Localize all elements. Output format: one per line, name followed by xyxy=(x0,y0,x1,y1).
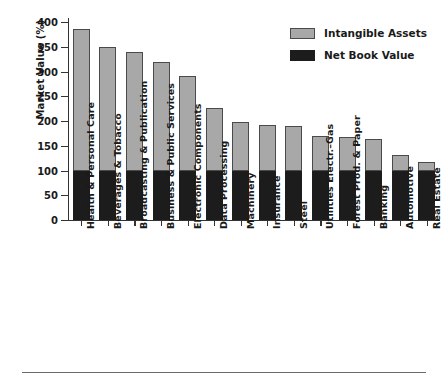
x-tick-label: Business & Public Services xyxy=(165,83,176,229)
chart-figure: Market Value (%) 05010015020025030035040… xyxy=(0,0,448,387)
x-tick xyxy=(267,220,268,226)
y-tick xyxy=(61,96,68,97)
legend-item: Intangible Assets xyxy=(290,22,427,44)
bar-segment-intangible-assets xyxy=(365,139,382,170)
x-tick xyxy=(241,220,242,226)
y-tick-label: 150 xyxy=(0,140,58,151)
y-tick xyxy=(61,121,68,122)
y-tick-label: 0 xyxy=(0,215,58,226)
x-tick-label: Real Estate xyxy=(431,167,442,229)
x-tick-label: Steel xyxy=(298,201,309,229)
x-tick-label: Health & Personal Care xyxy=(85,102,96,229)
legend-swatch xyxy=(290,28,315,39)
y-tick-label: 100 xyxy=(0,165,58,176)
bar-segment-intangible-assets xyxy=(259,125,276,170)
y-tick xyxy=(61,220,68,221)
y-tick xyxy=(61,171,68,172)
x-tick-label: Broadcasting & Publication xyxy=(138,81,149,229)
x-tick-label: Utilities Electr.–Gas xyxy=(324,124,335,229)
legend-item: Net Book Value xyxy=(290,44,427,66)
x-tick-label: Beverages & Tobacco xyxy=(112,113,123,229)
x-tick xyxy=(134,220,135,226)
x-tick xyxy=(108,220,109,226)
y-tick-label: 200 xyxy=(0,116,58,127)
x-tick-label: Machinery xyxy=(245,173,256,230)
x-tick xyxy=(161,220,162,226)
y-axis-line xyxy=(68,18,69,221)
legend-label: Intangible Assets xyxy=(324,27,427,39)
y-tick-label: 250 xyxy=(0,91,58,102)
x-tick xyxy=(427,220,428,226)
y-tick-label: 50 xyxy=(0,190,58,201)
bar-segment-intangible-assets xyxy=(232,122,249,171)
y-tick xyxy=(61,22,68,23)
chart-legend: Intangible AssetsNet Book Value xyxy=(290,22,427,66)
legend-label: Net Book Value xyxy=(324,49,415,61)
x-tick xyxy=(320,220,321,226)
x-tick xyxy=(188,220,189,226)
horizontal-rule xyxy=(22,372,426,373)
y-tick-label: 350 xyxy=(0,41,58,52)
x-tick-label: Automotive xyxy=(404,166,415,229)
x-tick xyxy=(400,220,401,226)
legend-swatch xyxy=(290,50,315,61)
x-tick xyxy=(347,220,348,226)
y-tick-label: 400 xyxy=(0,17,58,28)
x-tick xyxy=(294,220,295,226)
x-tick-label: Electronic Components xyxy=(192,103,203,229)
bar-segment-intangible-assets xyxy=(285,126,302,170)
x-tick-label: Insurance xyxy=(271,175,282,229)
x-tick xyxy=(81,220,82,226)
x-tick-label: Data Processing xyxy=(218,141,229,229)
y-tick-label: 300 xyxy=(0,66,58,77)
x-tick-label: Banking xyxy=(378,185,389,229)
y-tick xyxy=(61,47,68,48)
y-tick xyxy=(61,146,68,147)
x-tick xyxy=(374,220,375,226)
y-tick xyxy=(61,72,68,73)
y-tick xyxy=(61,195,68,196)
x-tick-label: Forest Prod. & Paper xyxy=(351,115,362,229)
x-tick xyxy=(214,220,215,226)
